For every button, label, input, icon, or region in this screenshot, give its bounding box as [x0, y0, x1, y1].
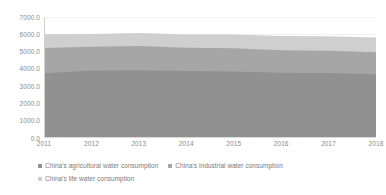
legend-label: China's industrial water consumption: [175, 162, 282, 169]
x-axis-tick-label: 2012: [84, 140, 99, 147]
y-axis-tick-label: 3000.0: [0, 83, 44, 90]
x-axis-tick-label: 2011: [37, 140, 51, 147]
y-axis-tick-text: 5000.0: [0, 48, 44, 55]
x-axis-tick-label: 2017: [321, 140, 336, 147]
x-axis-tick-labels: 20112012201320142015201620172018: [44, 140, 376, 152]
x-axis-line: [44, 137, 376, 138]
plot-area: [44, 17, 376, 138]
legend-swatch-icon: [168, 164, 172, 168]
x-axis-tick-label: 2013: [131, 140, 146, 147]
series-areas: [44, 17, 376, 138]
y-axis-tick-label: 2000.0: [0, 100, 44, 107]
chart-legend: China's agricultural water consumptionCh…: [38, 159, 386, 185]
legend-row: China's life water consumption: [38, 172, 386, 185]
x-axis-tick-label: 2015: [226, 140, 241, 147]
y-axis-tick-text: 3000.0: [0, 83, 44, 90]
y-axis-tick-text: 4000.0: [0, 65, 44, 72]
area-series: [44, 70, 376, 138]
y-axis-tick-label: 4000.0: [0, 65, 44, 72]
legend-label: China's agricultural water consumption: [45, 162, 158, 169]
y-axis-tick-label: 1000.0: [0, 117, 44, 124]
x-axis-tick-label: 2018: [369, 140, 384, 147]
legend-swatch-icon: [38, 177, 42, 181]
y-axis-tick-label: 6000.0: [0, 31, 44, 38]
y-axis-tick-text: 1000.0: [0, 117, 44, 124]
stacked-area-chart: 0.01000.02000.03000.04000.05000.06000.07…: [0, 0, 386, 195]
x-axis-tick-label: 2016: [274, 140, 289, 147]
y-axis-tick-text: 6000.0: [0, 31, 44, 38]
legend-row: China's agricultural water consumptionCh…: [38, 159, 386, 172]
legend-item[interactable]: China's industrial water consumption: [168, 162, 282, 169]
legend-item[interactable]: China's agricultural water consumption: [38, 162, 158, 169]
y-axis-tick-text: 7000.0: [0, 14, 44, 21]
legend-swatch-icon: [38, 164, 42, 168]
y-axis-tick-label: 7000.0: [0, 14, 44, 21]
legend-label: China's life water consumption: [45, 175, 134, 182]
x-axis-tick-label: 2014: [179, 140, 194, 147]
legend-item[interactable]: China's life water consumption: [38, 175, 134, 182]
y-axis-tick-label: 5000.0: [0, 48, 44, 55]
y-axis-line: [44, 17, 45, 138]
y-axis-tick-text: 2000.0: [0, 100, 44, 107]
